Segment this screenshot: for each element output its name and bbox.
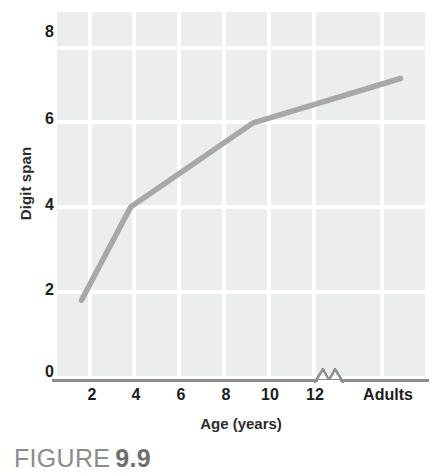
y-tick-label-2: 2 [28, 282, 54, 298]
x-tick-label-10: 10 [253, 386, 287, 404]
figure-container: Digit span 8 6 4 2 0 2 [0, 0, 441, 476]
x-tick-label-6: 6 [167, 386, 195, 404]
figure-caption-word: FIGURE [14, 444, 110, 472]
x-tick-label-4: 4 [122, 386, 150, 404]
x-tick-label-8: 8 [212, 386, 240, 404]
x-tick-label-12: 12 [298, 386, 332, 404]
y-tick-label-8: 8 [28, 24, 54, 40]
plot-area [57, 12, 425, 380]
y-tick-label-4: 4 [28, 197, 54, 213]
x-axis-tick-labels: 2 4 6 8 10 12 Adults [0, 386, 441, 412]
y-tick-label-0: 0 [28, 364, 54, 380]
x-axis-title: Age (years) [57, 415, 425, 432]
x-tick-label-adults: Adults [355, 386, 421, 404]
y-axis-tick-labels: 8 6 4 2 0 [24, 0, 54, 400]
figure-caption: FIGURE9.9 [14, 444, 151, 473]
axis-break-zigzag-icon [314, 366, 344, 384]
data-series-svg [57, 12, 425, 380]
x-tick-label-2: 2 [78, 386, 106, 404]
figure-caption-number: 9.9 [115, 444, 151, 472]
data-line-digit-span [82, 79, 401, 301]
x-axis-line [52, 379, 429, 382]
y-tick-label-6: 6 [28, 111, 54, 127]
